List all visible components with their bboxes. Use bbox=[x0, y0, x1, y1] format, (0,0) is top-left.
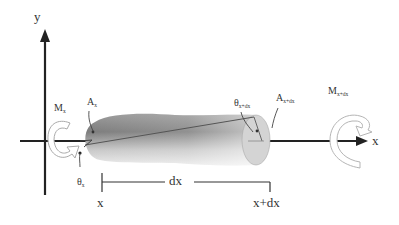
angle-right-label: θx+dx bbox=[234, 98, 250, 109]
y-axis bbox=[40, 29, 50, 195]
area-right-subscript: x+dx bbox=[283, 98, 294, 104]
x-axis-label: x bbox=[372, 134, 379, 147]
y-axis-arrowhead-icon bbox=[40, 29, 50, 42]
dimension-line bbox=[102, 173, 270, 192]
dimension-start-label: x bbox=[97, 196, 104, 209]
moment-right-label: Mx+dx bbox=[328, 86, 348, 97]
angle-left-subscript: x bbox=[82, 182, 85, 188]
dimension-end-label: x+dx bbox=[253, 196, 280, 209]
moment-left-symbol: M bbox=[54, 102, 63, 113]
moment-right-symbol: M bbox=[328, 85, 337, 96]
moment-arrow-left-icon bbox=[48, 121, 79, 158]
y-axis-label: y bbox=[34, 10, 41, 23]
dimension-length-label: dx bbox=[169, 174, 182, 187]
angle-right-subscript: x+dx bbox=[239, 103, 250, 109]
area-left-subscript: x bbox=[94, 102, 97, 108]
x-axis-arrowhead-icon bbox=[356, 136, 368, 146]
angle-left-label: θx bbox=[77, 177, 85, 188]
moment-left-subscript: x bbox=[63, 108, 66, 114]
area-right-label: Ax+dx bbox=[276, 93, 295, 104]
torsion-diagram: y x Mx Ax θx θx+dx Ax+dx Mx+dx x dx x+dx bbox=[0, 0, 399, 225]
moment-right-subscript: x+dx bbox=[337, 91, 348, 97]
area-left-label: Ax bbox=[87, 97, 97, 108]
bar-element bbox=[78, 114, 270, 166]
moment-left-label: Mx bbox=[54, 103, 66, 114]
